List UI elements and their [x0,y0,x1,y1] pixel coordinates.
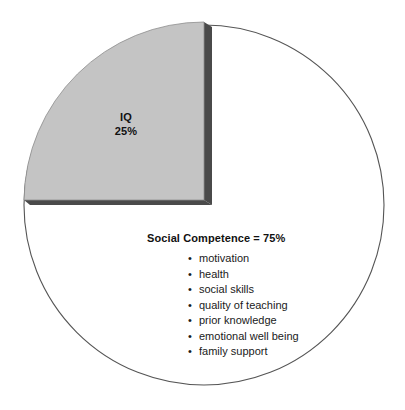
list-item: • health [188,267,357,283]
bullet-icon: • [188,313,192,329]
list-item-label: health [199,268,229,280]
list-item: • quality of teaching [188,298,357,314]
list-item-label: quality of teaching [199,299,288,311]
social-competence-block: Social Competence = 75% • motivation • h… [147,231,357,360]
list-item: • motivation [188,251,357,267]
pie-chart: IQ 25% Social Competence = 75% • motivat… [0,0,405,410]
wedge-label-percent: 25% [78,124,174,138]
bullet-icon: • [188,251,192,267]
list-item-label: social skills [199,283,254,295]
bullet-icon: • [188,344,192,360]
wedge-shadow-bottom [24,200,212,205]
list-item-label: family support [199,345,267,357]
list-item-label: prior knowledge [199,314,277,326]
list-item: • prior knowledge [188,313,357,329]
wedge-label-iq: IQ 25% [78,110,174,138]
bullet-icon: • [188,329,192,345]
list-item: • emotional well being [188,329,357,345]
wedge-label-name: IQ [78,110,174,124]
wedge-shadow-right [204,22,212,205]
list-item: • social skills [188,282,357,298]
bullet-icon: • [188,298,192,314]
social-competence-heading: Social Competence = 75% [147,231,357,245]
social-competence-list: • motivation • health • social skills • … [147,251,357,360]
bullet-icon: • [188,282,192,298]
bullet-icon: • [188,267,192,283]
list-item: • family support [188,344,357,360]
list-item-label: emotional well being [199,330,299,342]
list-item-label: motivation [199,252,249,264]
